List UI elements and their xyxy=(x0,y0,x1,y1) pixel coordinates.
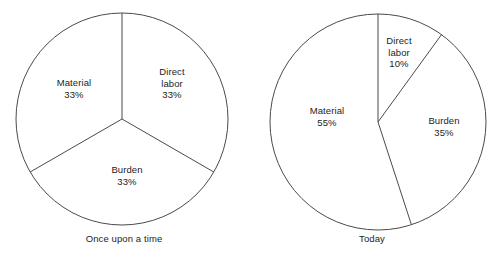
slice-label-name-line1: Direct xyxy=(159,66,184,78)
panel-caption-today: Today xyxy=(248,233,496,244)
slice-label-burden: Burden 33% xyxy=(111,164,142,187)
pie-chart-once-upon-a-time xyxy=(0,0,248,232)
slice-label-value: 33% xyxy=(57,88,92,100)
slice-label-burden: Burden 35% xyxy=(428,115,459,138)
slice-label-value: 10% xyxy=(386,58,411,70)
chart-panel-today: Direct labor 10% Burden 35% Material 55%… xyxy=(248,0,496,259)
slice-label-name-line2: labor xyxy=(159,77,184,89)
slice-label-name-line1: Material xyxy=(57,77,92,89)
slice-label-direct-labor: Direct labor 33% xyxy=(159,66,184,101)
panel-caption-once-upon-a-time: Once upon a time xyxy=(0,233,248,244)
chart-panel-once-upon-a-time: Direct labor 33% Burden 33% Material 33%… xyxy=(0,0,248,259)
slice-label-name-line1: Burden xyxy=(428,115,459,127)
slice-label-material: Material 33% xyxy=(57,77,92,100)
slice-label-value: 35% xyxy=(428,126,459,138)
slice-label-name-line2: labor xyxy=(386,46,411,58)
slice-label-material: Material 55% xyxy=(310,105,345,128)
slice-label-value: 33% xyxy=(111,175,142,187)
slice-label-value: 55% xyxy=(310,116,345,128)
slice-label-name-line1: Burden xyxy=(111,164,142,176)
slice-label-name-line1: Direct xyxy=(386,35,411,47)
pie-chart-figure: Direct labor 33% Burden 33% Material 33%… xyxy=(0,0,496,259)
slice-label-value: 33% xyxy=(159,89,184,101)
slice-label-direct-labor: Direct labor 10% xyxy=(386,35,411,70)
slice-label-name-line1: Material xyxy=(310,105,345,117)
